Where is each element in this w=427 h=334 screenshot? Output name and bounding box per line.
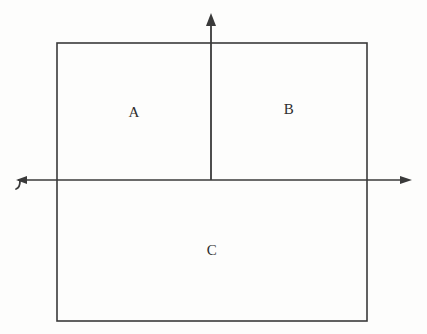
bent-arrow-left-icon [16, 176, 27, 189]
geometry-diagram-svg: A B C [0, 0, 427, 334]
region-label-b: B [284, 101, 294, 117]
arrowhead-right-icon [400, 176, 412, 184]
figure-canvas: A B C [0, 0, 427, 334]
outer-rectangle [57, 43, 367, 321]
region-label-a: A [128, 104, 139, 120]
arrowhead-up-icon [206, 13, 216, 26]
region-label-c: C [207, 242, 217, 258]
